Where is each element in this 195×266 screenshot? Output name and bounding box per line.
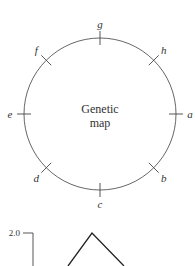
- marker-label-d: d: [34, 172, 40, 184]
- chart-line: [68, 233, 124, 266]
- marker-label-b: b: [161, 172, 167, 184]
- marker-label-g: g: [97, 18, 103, 30]
- partial-chart: 2.0: [9, 228, 124, 266]
- center-label-line2: map: [90, 116, 111, 130]
- marker-label-a: a: [187, 108, 193, 120]
- marker-label-c: c: [98, 198, 103, 210]
- center-label-line1: Genetic: [81, 102, 118, 116]
- marker-label-h: h: [161, 44, 167, 56]
- marker-label-f: f: [35, 44, 40, 56]
- genetic-map-diagram: ghabcdef Genetic map 2.0: [0, 0, 195, 266]
- y-tick-label: 2.0: [9, 228, 21, 238]
- marker-label-e: e: [8, 108, 13, 120]
